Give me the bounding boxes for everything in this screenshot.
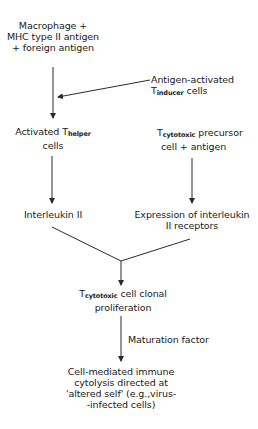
proliferation-rest: cell clonal [117, 288, 166, 299]
node-cytolysis-line-1: Cell-mediated immune [60, 366, 182, 377]
line-receptors-to-join [121, 239, 190, 261]
node-macrophage-line-2: MHC type II antigen [0, 31, 106, 42]
node-receptors-line-1: Expression of interleukin [134, 209, 250, 220]
node-helper: Activated Thelper cells [10, 126, 96, 151]
node-macrophage: Macrophage + MHC type II antigen + forei… [0, 20, 106, 53]
node-proliferation-line-1: Tcytotoxic cell clonal [68, 288, 178, 302]
line-interleukin-to-join [52, 227, 121, 261]
node-precursor-line-2: cell + antigen [157, 141, 243, 152]
node-receptors: Expression of interleukin II receptors [134, 209, 250, 231]
node-cytolysis-line-2: cytolysis directed at [60, 377, 182, 388]
node-macrophage-line-1: Macrophage + [0, 20, 106, 31]
node-macrophage-line-3: + foreign antigen [0, 42, 106, 53]
maturation-factor-label: Maturation factor [128, 334, 209, 345]
subscript-cytotoxic: cytotoxic [163, 131, 196, 139]
subscript-inducer: inducer [157, 89, 184, 97]
node-cytolysis-line-3: 'altered self' (e.g.,virus- [60, 388, 182, 399]
node-interleukin: Interleukin II [10, 209, 96, 220]
helper-main: Activated T [15, 126, 68, 137]
inducer-rest: cells [184, 85, 208, 96]
node-cytolysis: Cell-mediated immune cytolysis directed … [60, 366, 182, 410]
node-precursor-line-1: Tcytotoxic precursor [157, 127, 243, 141]
subscript-helper: helper [68, 130, 91, 138]
node-inducer: Antigen-activated Tinducer cells [151, 74, 234, 99]
edge-label-maturation-factor: Maturation factor [128, 334, 209, 345]
precursor-rest: precursor [195, 127, 242, 138]
node-inducer-line-2: Tinducer cells [151, 85, 234, 99]
immune-response-flowchart: Macrophage + MHC type II antigen + forei… [0, 0, 258, 429]
node-inducer-line-1: Antigen-activated [151, 74, 234, 85]
node-helper-line-1: Activated Thelper [10, 126, 96, 140]
node-helper-line-2: cells [10, 140, 96, 151]
node-precursor: Tcytotoxic precursor cell + antigen [157, 127, 243, 152]
node-cytolysis-line-4: -infected cells) [60, 399, 182, 410]
subscript-cytotoxic: cytotoxic [85, 292, 118, 300]
node-proliferation: Tcytotoxic cell clonal proliferation [68, 288, 178, 313]
node-interleukin-label: Interleukin II [10, 209, 96, 220]
node-proliferation-line-2: proliferation [68, 302, 178, 313]
arrow-inducer-to-helper [58, 80, 150, 97]
node-receptors-line-2: II receptors [134, 220, 250, 231]
